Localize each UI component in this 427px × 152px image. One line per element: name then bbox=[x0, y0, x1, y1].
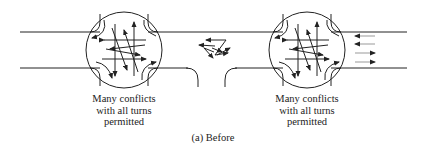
caption-line: Many conflicts bbox=[73, 93, 175, 105]
caption-line: permitted bbox=[73, 116, 175, 128]
caption-line: permitted bbox=[256, 116, 358, 128]
road-diagram bbox=[0, 0, 427, 152]
figure-label: (a) Before bbox=[173, 132, 253, 143]
left-intersection-caption: Many conflicts with all turns permitted bbox=[73, 93, 175, 128]
conflict-zone-circle bbox=[269, 12, 345, 88]
right-intersection-caption: Many conflicts with all turns permitted bbox=[256, 93, 358, 128]
caption-line: Many conflicts bbox=[256, 93, 358, 105]
conflict-zone-circle bbox=[86, 12, 162, 88]
main-road bbox=[20, 32, 407, 68]
left-intersection bbox=[86, 12, 162, 88]
side-street bbox=[186, 68, 237, 87]
caption-line: with all turns bbox=[73, 105, 175, 117]
right-intersection bbox=[269, 12, 345, 88]
caption-line: with all turns bbox=[256, 105, 358, 117]
approach-lane-arrows bbox=[355, 36, 375, 62]
side-street-movements bbox=[199, 40, 230, 58]
